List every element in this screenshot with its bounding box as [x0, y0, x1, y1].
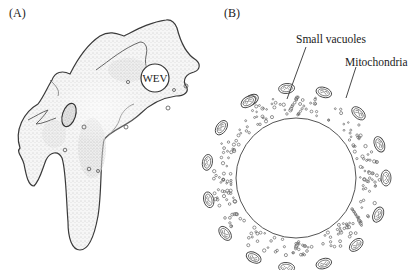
amoeba-cell: WEV: [18, 20, 199, 250]
cross-section: [201, 47, 391, 270]
small-vacuoles-leader: [287, 47, 306, 99]
wev-vesicle: WEV: [141, 64, 169, 92]
central-vacuole: [236, 118, 356, 238]
wev-label: WEV: [142, 72, 167, 84]
mitochondria-leader: [346, 67, 356, 98]
